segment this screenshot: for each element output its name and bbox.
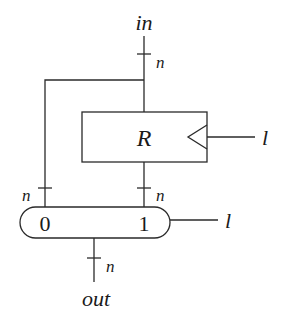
- register-label: R: [136, 125, 152, 151]
- input-label: in: [135, 10, 152, 35]
- output-bus-width-label: n: [106, 257, 115, 276]
- mux-input-1-label: 1: [139, 211, 150, 236]
- output-label: out: [82, 286, 111, 311]
- mux-select-signal-label: l: [225, 208, 231, 233]
- input-bus-width-label: n: [156, 53, 165, 72]
- clock-signal-label: l: [262, 125, 268, 150]
- register-mux-diagram: in n n R l n 0 1 l n out: [0, 0, 286, 326]
- bypass-bus-width-label: n: [22, 186, 31, 205]
- register-output-bus-width-label: n: [156, 186, 165, 205]
- mux-input-0-label: 0: [40, 211, 51, 236]
